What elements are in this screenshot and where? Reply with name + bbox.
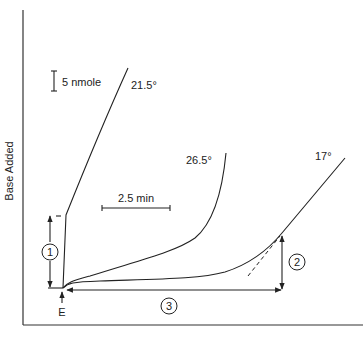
annotation-3-label: 3 — [166, 300, 172, 312]
curve-21-5-label: 21.5° — [131, 79, 157, 91]
x-scale-bar — [102, 205, 170, 211]
curve-26-5 — [63, 153, 226, 288]
curve-17 — [63, 158, 345, 288]
curve-21-5 — [63, 68, 128, 288]
y-scale-bar — [51, 71, 57, 91]
y-axis-label: Base Added — [3, 141, 15, 200]
annotation-1-label: 1 — [47, 246, 53, 258]
y-scale-label: 5 nmole — [62, 76, 101, 88]
curve-26-5-label: 26.5° — [186, 154, 212, 166]
curve-17-label: 17° — [315, 150, 332, 162]
e-label: E — [58, 306, 65, 318]
chart: Base Added 5 nmole 2.5 min 21.5° 26.5° 1… — [0, 0, 363, 337]
x-scale-label: 2.5 min — [118, 192, 154, 204]
annotation-2-label: 2 — [294, 256, 300, 268]
tangent-line — [248, 236, 280, 276]
